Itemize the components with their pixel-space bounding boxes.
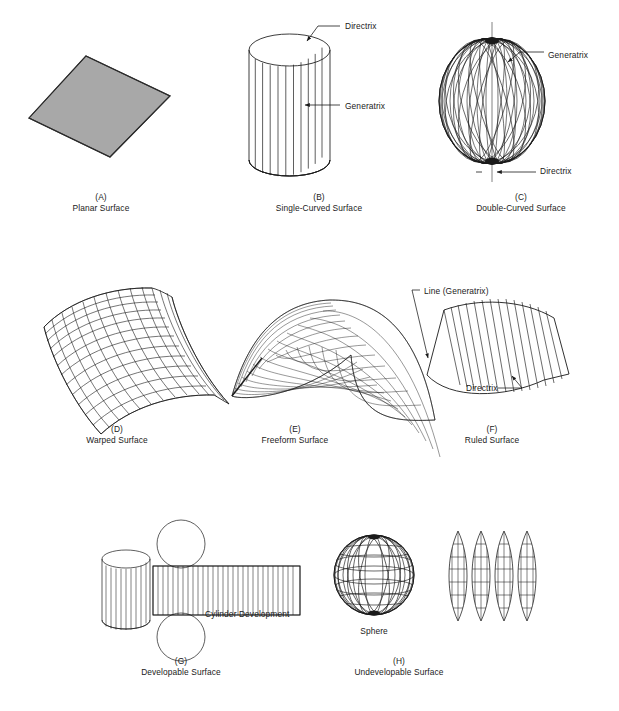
- annotation-directrix-f: Directrix: [466, 383, 498, 393]
- caption-key-a: (A): [73, 192, 130, 203]
- caption-label-c: Double-Curved Surface: [476, 203, 566, 214]
- caption-key-g: (G): [141, 656, 221, 667]
- annotation-cylinder-development: Cylinder Development: [205, 609, 289, 619]
- undev-sphere-parallels: [334, 545, 414, 605]
- caption-panel-h: (H) Undevelopable Surface: [354, 656, 443, 677]
- figure-canvas: [0, 0, 619, 711]
- panel-c-sphere: [431, 22, 552, 182]
- undev-sphere: [332, 529, 417, 620]
- caption-key-f: (F): [465, 424, 519, 435]
- developable-cylinder: [100, 550, 152, 640]
- caption-panel-f: (F) Ruled Surface: [465, 424, 519, 445]
- warped-mesh-lines: [44, 287, 229, 434]
- caption-key-b: (B): [276, 192, 362, 203]
- panel-d-warped-mesh: [44, 287, 229, 434]
- annotation-sphere: Sphere: [360, 626, 388, 636]
- annotation-generatrix-c: Generatrix: [548, 50, 588, 60]
- caption-key-d: (D): [86, 424, 148, 435]
- caption-key-h: (H): [354, 656, 443, 667]
- caption-label-a: Planar Surface: [73, 203, 130, 214]
- caption-label-e: Freeform Surface: [262, 435, 329, 446]
- panel-g-developable: [100, 520, 300, 661]
- sphere-south-pole-c: [485, 158, 499, 164]
- panel-f-ruled-surface: [412, 290, 569, 394]
- freeform-cusp-spike: [232, 358, 262, 396]
- caption-panel-g: (G) Developable Surface: [141, 656, 221, 677]
- undev-gore-pattern: [440, 525, 545, 627]
- undev-gore-gridlines: [440, 525, 545, 627]
- dev-rectangle-elements: [158, 566, 293, 615]
- planar-parallelogram: [29, 56, 170, 157]
- undev-sphere-meridians: [332, 529, 417, 620]
- caption-panel-a: (A) Planar Surface: [73, 192, 130, 213]
- annotation-directrix-c: Directrix: [540, 166, 572, 176]
- sphere-north-pole-c: [485, 38, 499, 44]
- caption-label-g: Developable Surface: [141, 667, 221, 678]
- cylinder-top-ellipse: [249, 34, 330, 66]
- surface-types-figure: Directrix Generatrix Generatrix Directri…: [0, 0, 619, 711]
- caption-panel-e: (E) Freeform Surface: [262, 424, 329, 445]
- caption-key-c: (C): [476, 192, 566, 203]
- caption-label-h: Undevelopable Surface: [354, 667, 443, 678]
- caption-key-e: (E): [262, 424, 329, 435]
- caption-label-d: Warped Surface: [86, 435, 148, 446]
- ruled-bottom-right: [544, 374, 569, 380]
- dev-top-circle: [157, 520, 205, 568]
- ruled-right-edge: [554, 318, 569, 374]
- directrix-leader-b: [307, 26, 340, 41]
- annotation-directrix-b: Directrix: [345, 21, 377, 31]
- panel-a-planar-surface: [29, 56, 170, 157]
- freeform-mesh-u: [232, 300, 435, 420]
- generatrix-leader-f: [412, 290, 428, 358]
- panel-b-cylinder: [246, 26, 340, 182]
- caption-label-b: Single-Curved Surface: [276, 203, 362, 214]
- caption-panel-d: (D) Warped Surface: [86, 424, 148, 445]
- annotation-generatrix-b: Generatrix: [345, 101, 385, 111]
- dev-cylinder-elements: [106, 563, 146, 630]
- caption-panel-b: (B) Single-Curved Surface: [276, 192, 362, 213]
- annotation-line-generatrix-f: Line (Generatrix): [424, 286, 489, 296]
- cylinder-generatrix-elements: [255, 48, 322, 177]
- dev-cylinder-top: [102, 550, 150, 568]
- caption-panel-c: (C) Double-Curved Surface: [476, 192, 566, 213]
- directrix-leader-f: [498, 376, 522, 388]
- panel-h-undevelopable: [332, 525, 545, 627]
- dev-bottom-circle: [157, 613, 205, 661]
- ruled-left-edge: [427, 310, 444, 375]
- caption-label-f: Ruled Surface: [465, 435, 519, 446]
